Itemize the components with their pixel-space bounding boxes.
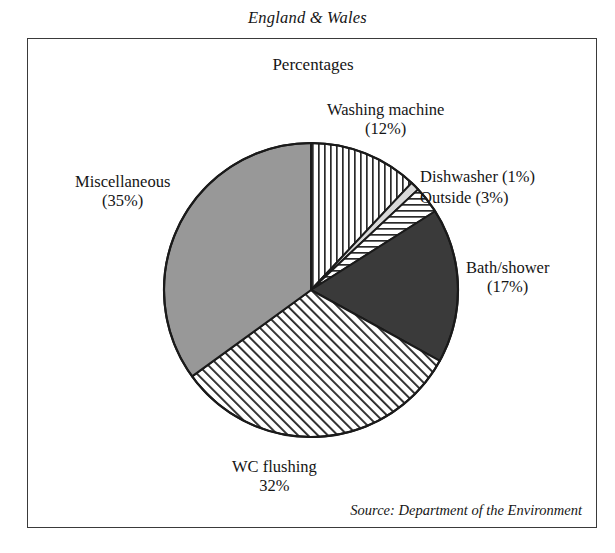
pie-chart-figure: England & Wales Percentages Source: Depa… (0, 0, 615, 553)
slice-label-line1: Dishwasher (1%) (420, 167, 535, 186)
pie-slice-group (164, 143, 458, 437)
slice-label-washing-machine: Washing machine (12%) (327, 100, 444, 138)
slice-label-line1: Miscellaneous (75, 172, 170, 191)
slice-label-dishwasher: Dishwasher (1%) (420, 167, 535, 186)
slice-label-wc-flushing: WC flushing 32% (232, 457, 317, 495)
slice-label-line1: Outside (3%) (420, 188, 508, 207)
slice-label-miscellaneous: Miscellaneous (35%) (75, 172, 170, 210)
slice-label-outside: Outside (3%) (420, 188, 508, 207)
slice-label-line2: (35%) (75, 191, 170, 210)
slice-label-line2: 32% (232, 476, 317, 495)
slice-label-line1: Bath/shower (466, 258, 549, 277)
slice-label-line1: Washing machine (327, 100, 444, 119)
slice-label-line1: WC flushing (232, 457, 317, 476)
slice-label-line2: (12%) (327, 119, 444, 138)
slice-label-bath-shower: Bath/shower (17%) (466, 258, 549, 296)
slice-label-line2: (17%) (466, 277, 549, 296)
